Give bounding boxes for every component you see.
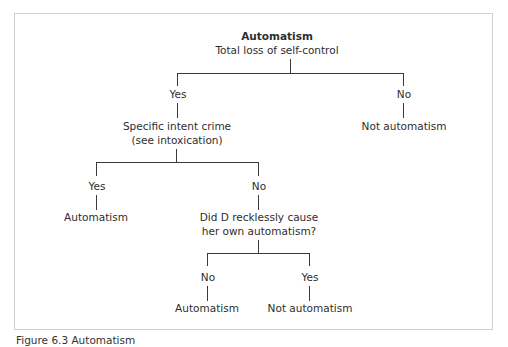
- level3-no-label: No: [201, 271, 215, 284]
- level1-yes-label: Yes: [170, 88, 187, 101]
- level1-yes-question-line2: (see intoxication): [131, 134, 222, 147]
- level2-yes-stem: [96, 195, 97, 210]
- level2-branch-line: [96, 162, 259, 163]
- level2-no-label: No: [252, 180, 266, 193]
- level2-no-stem: [258, 195, 259, 210]
- level2-yes-label: Yes: [89, 180, 106, 193]
- level3-stem: [258, 240, 259, 253]
- level1-yes-question-line1: Specific intent crime: [123, 120, 231, 133]
- root-question: Total loss of self-control: [215, 44, 338, 57]
- level2-yes-drop: [96, 162, 97, 176]
- level3-yes-result: Not automatism: [268, 302, 353, 315]
- level3-no-result: Automatism: [175, 302, 239, 315]
- level3-yes-label: Yes: [302, 271, 319, 284]
- level1-no-drop: [403, 73, 404, 86]
- level3-no-stem: [207, 286, 208, 301]
- level3-branch-line: [207, 253, 310, 254]
- level1-no-result: Not automatism: [362, 120, 447, 133]
- level2-no-drop: [258, 162, 259, 176]
- level1-yes-drop: [177, 73, 178, 86]
- figure-caption: Figure 6.3 Automatism: [16, 334, 135, 347]
- level2-yes-result: Automatism: [64, 211, 128, 224]
- diagram-frame: [14, 13, 493, 330]
- root-stem: [290, 59, 291, 73]
- level1-branch-line: [177, 73, 404, 74]
- level1-no-stem: [403, 103, 404, 118]
- level3-yes-drop: [309, 253, 310, 266]
- level1-yes-stem: [177, 103, 178, 118]
- level2-no-question-line2: her own automatism?: [202, 225, 316, 238]
- root-title: Automatism: [241, 30, 313, 43]
- level3-yes-stem: [309, 286, 310, 301]
- level2-stem: [176, 149, 177, 162]
- level1-no-label: No: [397, 88, 411, 101]
- level3-no-drop: [207, 253, 208, 266]
- level2-no-question-line1: Did D recklessly cause: [200, 211, 318, 224]
